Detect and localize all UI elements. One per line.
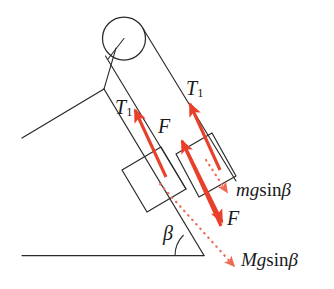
label-force-lower-symbol: F <box>227 207 239 229</box>
label-force-upper-symbol: F <box>158 115 170 137</box>
diagram-canvas <box>0 0 334 289</box>
physics-diagram-figure: T1 T1 F F β mgsinβ Mgsinβ <box>0 0 334 289</box>
label-weight-large-sin: sin <box>266 249 288 270</box>
label-angle-beta-symbol: β <box>163 222 173 244</box>
label-force-lower: F <box>227 208 239 228</box>
label-tension-left: T1 <box>115 97 132 119</box>
left-slope-line <box>22 89 104 138</box>
label-tension-right: T1 <box>186 78 203 100</box>
label-force-upper: F <box>158 116 170 136</box>
label-weight-small-mass: mg <box>236 179 259 200</box>
label-weight-large-beta: β <box>289 249 298 270</box>
label-weight-large-mass: Mg <box>241 249 266 270</box>
label-tension-left-symbol: T <box>115 96 126 118</box>
label-weight-small-sin: sin <box>259 179 281 200</box>
label-tension-right-symbol: T <box>186 77 197 99</box>
label-weight-small: mgsinβ <box>236 180 291 199</box>
label-tension-left-subscript: 1 <box>126 105 132 119</box>
label-tension-right-subscript: 1 <box>197 86 203 100</box>
label-weight-large: Mgsinβ <box>241 250 298 269</box>
arrow-force-down <box>184 145 222 222</box>
label-angle-beta: β <box>163 223 173 243</box>
angle-arc-beta <box>175 235 184 256</box>
label-weight-small-beta: β <box>281 179 290 200</box>
